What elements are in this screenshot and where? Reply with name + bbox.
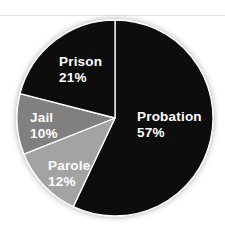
pie-chart: Probation57%Parole12%Jail10%Prison21%	[0, 0, 225, 233]
